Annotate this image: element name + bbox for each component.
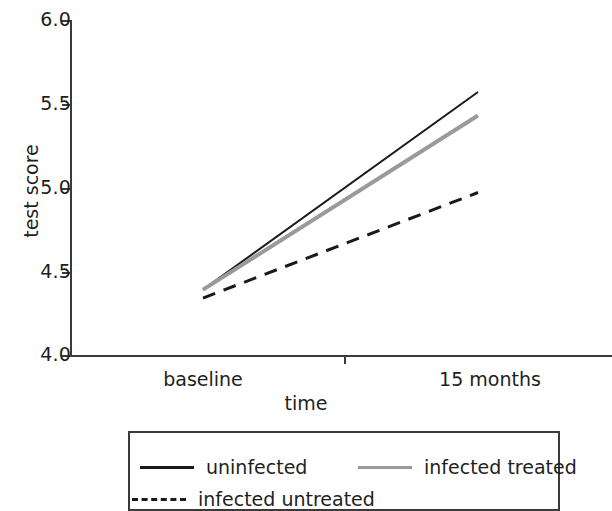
- y-tick-6: 6.0: [0, 20, 71, 22]
- legend-label-infected-treated: infected treated: [424, 456, 577, 478]
- legend-entry-infected-untreated: infected untreated: [132, 487, 375, 511]
- series-line-uninfected: [203, 92, 478, 290]
- legend-label-uninfected: uninfected: [206, 456, 307, 478]
- y-axis-title: test score: [21, 111, 41, 271]
- x-axis-title: time: [0, 392, 612, 414]
- y-tick-3: 4.5: [0, 272, 71, 274]
- legend-swatch-dashed-line-icon: [132, 492, 186, 506]
- x-tick-label-15-months: 15 months: [410, 368, 570, 390]
- series-line-infected-treated: [203, 115, 478, 289]
- y-tick-2: 4.0: [0, 355, 71, 357]
- series-line-infected-untreated: [203, 193, 478, 299]
- legend-entry-infected-treated: infected treated: [358, 455, 577, 479]
- y-tick-label-6: 6.0: [17, 10, 71, 29]
- y-tick-label-2: 4.0: [17, 345, 71, 364]
- legend-swatch-solid-line-icon: [140, 460, 194, 474]
- x-axis-line: [70, 355, 612, 357]
- legend-label-infected-untreated: infected untreated: [198, 488, 375, 510]
- x-tick-label-baseline: baseline: [138, 368, 268, 390]
- y-tick-5: 5.5: [0, 104, 71, 106]
- legend-entry-uninfected: uninfected: [140, 455, 307, 479]
- x-tick-mid: [344, 355, 346, 364]
- legend-swatch-gray-line-icon: [358, 460, 412, 474]
